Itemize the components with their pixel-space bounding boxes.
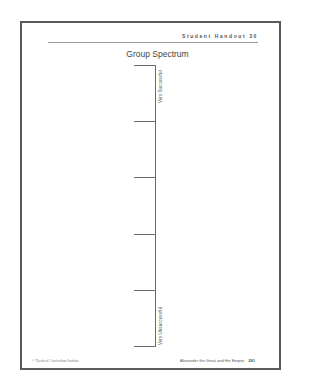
page-border	[20, 21, 281, 370]
footer-book-info: Alexander the Great and His Empire281	[175, 358, 255, 363]
spectrum-tick	[134, 234, 155, 235]
page-title: Group Spectrum	[100, 49, 215, 59]
copyright-text: © Teachers' Curriculum Institute	[32, 359, 79, 363]
header-rule	[48, 42, 258, 43]
spectrum-bottom-label: Very Unsuccessful	[158, 307, 163, 345]
spectrum-top-label: Very Successful	[158, 70, 163, 103]
spectrum-tick	[134, 121, 155, 122]
spectrum-axis	[155, 65, 156, 347]
page-number: 281	[248, 358, 255, 363]
spectrum-tick	[134, 177, 155, 178]
book-title: Alexander the Great and His Empire	[180, 358, 244, 363]
spectrum-tick	[134, 346, 155, 347]
handout-label: Student Handout 30	[140, 33, 258, 39]
spectrum-tick	[134, 290, 155, 291]
spectrum-tick	[134, 65, 155, 66]
